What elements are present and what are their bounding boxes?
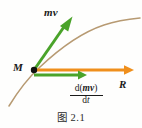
label-momentum-mv: mv — [44, 7, 58, 18]
momentum-vector-mv — [34, 17, 73, 71]
force-arrowhead — [124, 65, 134, 75]
denominator-t: t — [87, 95, 90, 105]
figure-container: mv M R d(mv) dt 图 2.1 — [0, 0, 142, 128]
point-marker-M — [31, 67, 37, 73]
label-derivative-fraction: d(mv) dt — [62, 84, 110, 106]
numerator-d-open: d( — [75, 83, 83, 93]
figure-caption: 图 2.1 — [0, 109, 142, 124]
force-vector-R — [34, 65, 134, 75]
fraction-numerator: d(mv) — [62, 84, 110, 94]
label-mass-point-M: M — [13, 62, 23, 73]
numerator-vector-mv: mv — [83, 83, 95, 93]
derivative-arrowhead — [78, 71, 87, 80]
numerator-close-paren: ) — [94, 83, 97, 93]
fraction-denominator: dt — [62, 96, 110, 106]
derivative-vector — [34, 71, 87, 80]
label-resultant-force-R: R — [119, 79, 126, 90]
